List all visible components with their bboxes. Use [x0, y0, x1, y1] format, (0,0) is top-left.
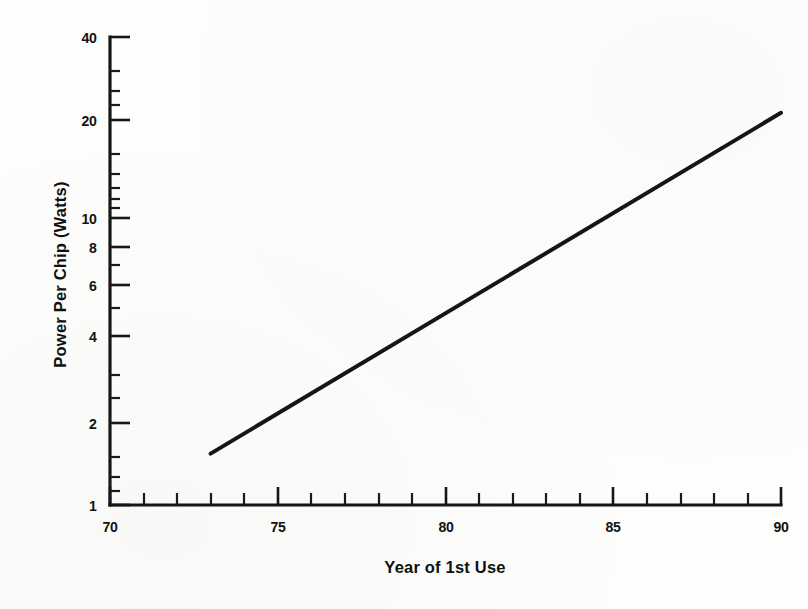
y-tick-label-20: 20 [53, 113, 96, 128]
y-tick-label-40: 40 [53, 30, 96, 45]
chart-plot-area [0, 0, 808, 609]
x-tick-label-85: 85 [592, 519, 633, 534]
y-tick-label-2: 2 [53, 416, 96, 431]
y-axis-major-ticks [110, 37, 130, 505]
x-tick-label-75: 75 [257, 519, 298, 534]
y-axis-title: Power Per Chip (Watts) [51, 155, 70, 395]
series-power-per-chip [211, 113, 781, 454]
y-tick-label-1: 1 [53, 498, 96, 513]
x-axis-title: Year of 1st Use [110, 558, 780, 577]
x-tick-label-70: 70 [89, 519, 130, 534]
figure-canvas: 40 20 10 8 6 4 2 1 70 75 80 85 90 Power … [0, 0, 808, 609]
x-tick-label-90: 90 [760, 519, 801, 534]
x-tick-label-80: 80 [425, 519, 466, 534]
